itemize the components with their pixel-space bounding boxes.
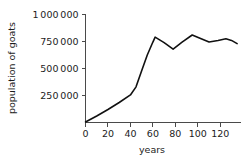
x-tick-label: 120 <box>211 128 229 139</box>
x-axis-group: 020406080100120 <box>82 123 240 139</box>
x-axis-ticks <box>86 123 221 127</box>
y-tick-label: 1 000 000 <box>32 9 78 20</box>
x-axis-tick-labels: 020406080100120 <box>82 128 229 139</box>
goat-population-line-chart: 250 000500 000750 0001 000 000 020406080… <box>0 0 251 158</box>
y-axis-title: population of goats <box>6 22 17 114</box>
y-axis-ticks <box>82 15 86 96</box>
x-tick-label: 0 <box>82 128 88 139</box>
data-series-line <box>86 35 238 122</box>
x-axis-title: years <box>139 144 165 155</box>
x-tick-label: 60 <box>147 128 159 139</box>
y-axis-tick-labels: 250 000500 000750 0001 000 000 <box>32 9 78 101</box>
y-tick-label: 250 000 <box>40 90 78 101</box>
x-tick-label: 80 <box>169 128 181 139</box>
x-tick-label: 40 <box>124 128 136 139</box>
chart-container: 250 000500 000750 0001 000 000 020406080… <box>0 0 251 158</box>
x-tick-label: 100 <box>189 128 207 139</box>
y-tick-label: 500 000 <box>40 63 78 74</box>
y-axis-group: 250 000500 000750 0001 000 000 <box>32 9 85 123</box>
y-tick-label: 750 000 <box>40 36 78 47</box>
x-tick-label: 20 <box>102 128 114 139</box>
